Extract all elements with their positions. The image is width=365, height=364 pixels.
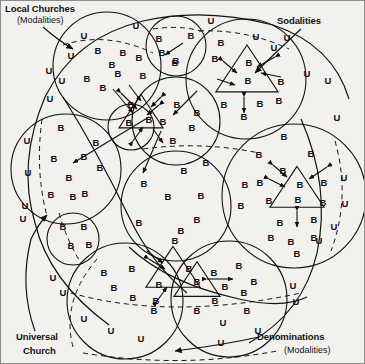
unbeliever-glyph: U: [133, 20, 140, 31]
label-universal-church-line1: Universal: [16, 331, 58, 342]
believer-glyph: B: [212, 53, 219, 64]
believer-glyph: B: [188, 30, 195, 41]
unbeliever-glyph: U: [208, 15, 215, 26]
believer-glyph: B: [128, 99, 135, 110]
believer-glyph: B: [159, 47, 166, 58]
believer-glyph: B: [194, 107, 201, 118]
believer-glyph: B: [111, 282, 118, 293]
believer-glyph: B: [70, 191, 77, 202]
believer-glyph: B: [156, 279, 163, 290]
believer-glyph: B: [241, 111, 248, 122]
believer-glyph: B: [246, 57, 253, 68]
unbeliever-glyph: U: [271, 42, 278, 53]
unbeliever-glyph: U: [20, 213, 27, 224]
believer-glyph: B: [281, 131, 288, 142]
glyph-layer: BBBBBBBBBBBBBBBBBBBBBBBBBBBBBBBBBBBBBBBB…: [20, 15, 349, 348]
unbeliever-glyph: U: [220, 317, 227, 328]
believer-glyph: B: [257, 177, 264, 188]
unbeliever-glyph: U: [59, 75, 66, 86]
believer-glyph: B: [68, 240, 75, 251]
leader-sodalities: [255, 29, 301, 73]
believer-glyph: B: [222, 281, 229, 292]
diagram-canvas: BBBBBBBBBBBBBBBBBBBBBBBBBBBBBBBBBBBBBBBB…: [0, 0, 365, 364]
arrow-layer: [73, 43, 327, 301]
believer-glyph: B: [295, 194, 302, 205]
believer-glyph: B: [297, 179, 304, 190]
believer-glyph: B: [236, 260, 243, 271]
unbeliever-glyph: U: [253, 31, 260, 42]
arrow-sodality-r-a: [269, 179, 285, 187]
unbeliever-glyph: U: [290, 280, 297, 291]
believer-glyph: B: [268, 232, 275, 243]
believer-glyph: B: [321, 177, 328, 188]
believer-glyph: B: [151, 305, 158, 316]
believer-glyph: B: [194, 214, 201, 225]
believer-glyph: B: [156, 33, 163, 44]
believer-glyph: B: [251, 276, 258, 287]
believer-glyph: B: [101, 267, 108, 278]
label-local-churches-sub: (Modalities): [17, 15, 64, 25]
believer-glyph: B: [218, 37, 225, 48]
arrow-sodality-tr-b: [217, 79, 235, 85]
arrow-sodality-tl-f: [153, 129, 163, 143]
believer-glyph: B: [93, 137, 100, 148]
believer-glyph: B: [51, 153, 58, 164]
unbeliever-glyph: U: [316, 235, 323, 246]
believer-glyph: B: [172, 57, 179, 68]
dashed-arc-9: [71, 293, 301, 307]
label-sodalities: Sodalities: [277, 15, 321, 26]
believer-glyph: B: [194, 305, 201, 316]
unbeliever-glyph: U: [47, 93, 54, 104]
believer-glyph: B: [115, 68, 122, 79]
unbeliever-glyph: U: [334, 112, 341, 123]
believer-glyph: B: [245, 75, 252, 86]
believer-glyph: B: [174, 99, 181, 110]
unbeliever-glyph: U: [138, 333, 145, 344]
believer-glyph: B: [126, 117, 133, 128]
unbeliever-glyph: U: [108, 325, 115, 336]
believer-glyph: B: [257, 98, 264, 109]
believer-glyph: B: [146, 114, 153, 125]
label-denominations-sub: (Modalities): [284, 345, 331, 355]
believer-glyph: B: [160, 116, 167, 127]
unbeliever-glyph: U: [22, 200, 29, 211]
believer-glyph: B: [241, 287, 248, 298]
unbeliever-glyph: U: [60, 287, 67, 298]
believer-glyph: B: [136, 52, 143, 63]
leader-universal-church: [26, 215, 47, 331]
believer-glyph: B: [178, 225, 185, 236]
unbeliever-glyph: U: [81, 30, 88, 41]
unbeliever-glyph: U: [25, 167, 32, 178]
believer-glyph: B: [82, 188, 89, 199]
label-denominations: Denominations: [257, 331, 324, 342]
believer-glyph: B: [278, 76, 285, 87]
unbeliever-glyph: U: [341, 172, 348, 183]
believer-glyph: B: [165, 191, 172, 202]
believer-glyph: B: [194, 276, 201, 287]
believer-glyph: B: [280, 165, 287, 176]
label-universal-church-line2: Church: [23, 345, 56, 356]
dashed-arc-4: [39, 119, 47, 216]
believer-glyph: B: [212, 295, 219, 306]
dashed-arc-10: [83, 351, 277, 361]
unbeliever-glyph: U: [331, 221, 338, 232]
diagram-svg: BBBBBBBBBBBBBBBBBBBBBBBBBBBBBBBBBBBBBBBB…: [1, 1, 365, 364]
believer-glyph: B: [276, 95, 283, 106]
believer-glyph: B: [66, 172, 73, 183]
believer-glyph: B: [256, 149, 263, 160]
believer-glyph: B: [288, 236, 295, 247]
believer-glyph: B: [170, 135, 177, 146]
believer-glyph: B: [172, 235, 179, 246]
believer-glyph: B: [58, 122, 65, 133]
believer-glyph: B: [95, 45, 102, 56]
believer-glyph: B: [181, 165, 188, 176]
believer-glyph: B: [84, 73, 91, 84]
believer-glyph: B: [308, 148, 315, 159]
believer-glyph: B: [242, 179, 249, 190]
believer-glyph: B: [97, 162, 104, 173]
unbeliever-glyph: U: [68, 50, 75, 61]
believer-glyph: B: [266, 195, 273, 206]
believer-glyph: B: [129, 263, 136, 274]
believer-glyph: B: [186, 263, 193, 274]
unbeliever-glyph: U: [46, 65, 53, 76]
